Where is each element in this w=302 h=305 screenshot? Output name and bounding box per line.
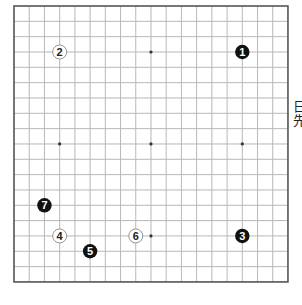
stone-black-move-1[interactable]: 1 <box>235 45 249 59</box>
star-point-icon <box>241 142 244 145</box>
move-number: 3 <box>239 230 245 242</box>
stone-black-move-5[interactable]: 5 <box>83 244 97 258</box>
move-number: 2 <box>57 46 63 58</box>
stone-black-move-7[interactable]: 7 <box>37 198 51 212</box>
star-point-icon <box>58 142 61 145</box>
move-number: 6 <box>133 230 139 242</box>
side-caption-char-1: 日 <box>293 100 302 114</box>
stone-white-move-2[interactable]: 2 <box>53 45 67 59</box>
star-point-icon <box>149 142 152 145</box>
stone-white-move-4[interactable]: 4 <box>53 229 67 243</box>
move-number: 1 <box>239 46 245 58</box>
star-point-icon <box>149 50 152 53</box>
go-board[interactable]: 1234567 <box>0 0 302 305</box>
move-number: 4 <box>57 230 64 242</box>
stone-white-move-6[interactable]: 6 <box>129 229 143 243</box>
side-caption: 日 先 <box>293 100 302 128</box>
stone-black-move-3[interactable]: 3 <box>235 229 249 243</box>
side-caption-char-2: 先 <box>293 114 302 128</box>
move-number: 7 <box>41 199 47 211</box>
move-number: 5 <box>87 245 93 257</box>
stones-layer: 1234567 <box>37 45 249 259</box>
star-point-icon <box>149 234 152 237</box>
